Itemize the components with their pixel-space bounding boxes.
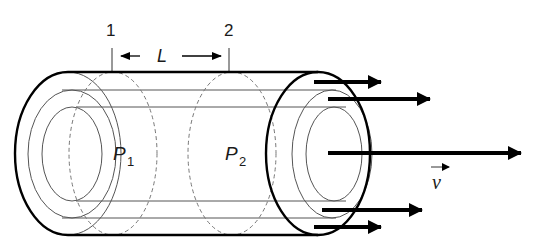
velocity-label: v	[431, 167, 449, 193]
pressure-label-2: P 2	[225, 143, 246, 169]
p2-main: P	[225, 143, 238, 164]
p2-subscript: 2	[239, 154, 246, 169]
left-middle-ring	[28, 90, 116, 218]
left-end-inner-rings	[28, 72, 121, 235]
left-inner-ring	[42, 107, 102, 201]
velocity-symbol: v	[432, 171, 441, 193]
length-label: L	[157, 46, 167, 66]
p1-main: P	[113, 143, 126, 164]
pipe-flow-diagram: 1 2 L P 1 P 2 v	[0, 0, 539, 249]
left-end-cap-front-edge	[15, 72, 68, 235]
p1-subscript: 1	[127, 154, 134, 169]
section-2-label: 2	[224, 21, 233, 40]
diagram-canvas: 1 2 L P 1 P 2 v	[0, 0, 539, 249]
section-1-label: 1	[106, 21, 115, 40]
pressure-label-1: P 1	[113, 143, 134, 169]
flow-arrows	[314, 82, 521, 227]
outer-tube	[15, 72, 318, 235]
